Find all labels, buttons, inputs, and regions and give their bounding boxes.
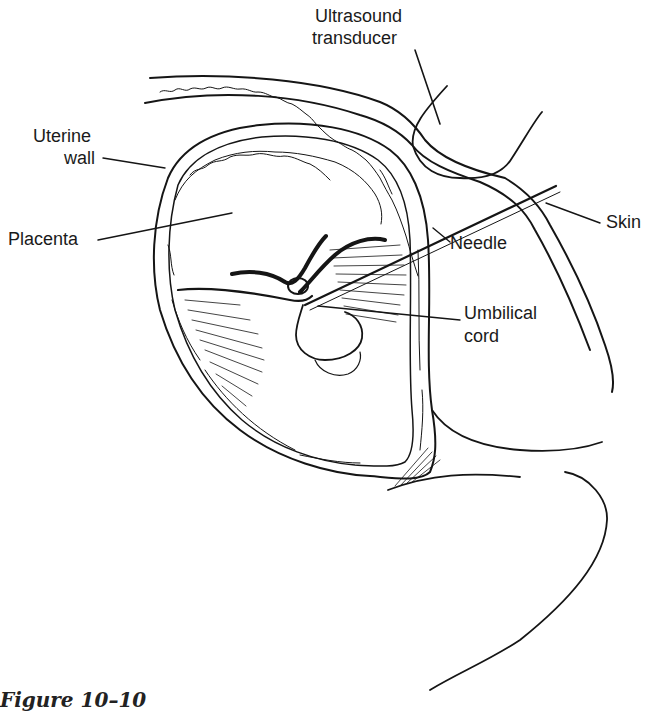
label-uterine-wall-line1: Uterine (33, 125, 91, 147)
uterine-wall-leader (103, 158, 165, 168)
label-ultrasound-transducer-line1: Ultrasound (315, 5, 402, 27)
label-placenta: Placenta (8, 228, 78, 250)
skin-leader (546, 203, 600, 223)
lower-body-contours (388, 410, 607, 690)
label-uterine-wall-line2: wall (64, 147, 95, 169)
label-umbilical-cord-line2: cord (464, 325, 499, 347)
label-needle: Needle (450, 232, 507, 254)
label-ultrasound-transducer-line2: transducer (312, 27, 397, 49)
umbilical-cord-leader (318, 306, 460, 320)
label-umbilical-cord-line1: Umbilical (464, 302, 537, 324)
placenta (175, 151, 385, 301)
fetus-hatching (185, 245, 406, 406)
anatomical-illustration (0, 0, 650, 712)
leader-lines (98, 158, 600, 320)
placenta-leader (98, 213, 232, 240)
ultrasound-transducer (413, 50, 542, 178)
cordocentesis-diagram: Ultrasound transducer Uterine wall Place… (0, 0, 650, 712)
figure-caption: Figure 10–10 (0, 688, 146, 712)
label-skin: Skin (606, 211, 641, 233)
